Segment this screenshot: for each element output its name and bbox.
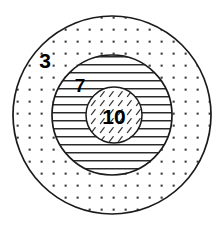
concentric-circles-diagram: 3 7 10: [0, 0, 224, 235]
diagram-canvas: 3 7 10: [0, 0, 224, 235]
middle-region-label: 7: [75, 75, 86, 96]
inner-region-label: 10: [102, 105, 125, 128]
outer-region-label: 3: [39, 49, 51, 72]
